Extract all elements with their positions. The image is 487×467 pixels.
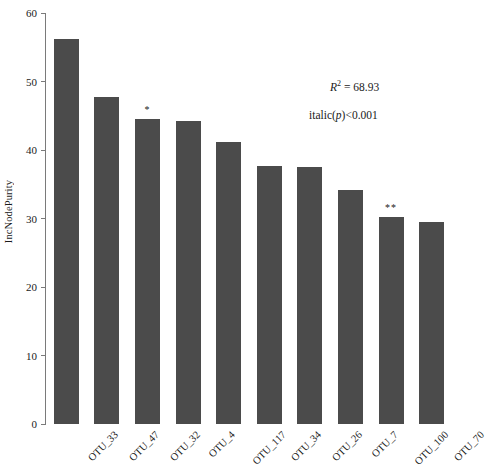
bar-group xyxy=(94,13,119,424)
x-axis-tick-label: OTU_100 xyxy=(413,429,452,467)
x-axis-tick-label: OTU_7 xyxy=(369,429,400,460)
bar xyxy=(94,97,119,424)
x-axis-tick-label: OTU_26 xyxy=(330,429,365,464)
significance-marker: * xyxy=(135,105,160,115)
bar xyxy=(176,121,201,424)
bar-group xyxy=(419,13,444,424)
bar-group: * xyxy=(135,13,160,424)
bar-group xyxy=(54,13,79,424)
bar xyxy=(257,166,282,424)
plot-area: *** xyxy=(46,13,452,424)
x-axis-tick-label: OTU_32 xyxy=(167,429,202,464)
y-axis-tick-label: 20 xyxy=(26,279,37,295)
bar-group xyxy=(257,13,282,424)
x-axis-tick-label: OTU_34 xyxy=(289,429,324,464)
y-axis-tick-label: 30 xyxy=(26,211,37,227)
bar-group xyxy=(176,13,201,424)
p-value-lead: italic( xyxy=(309,109,336,121)
bar xyxy=(54,39,79,424)
bar xyxy=(379,217,404,424)
bar xyxy=(297,167,322,424)
y-axis-tick-label: 50 xyxy=(26,74,37,90)
x-axis-tick-label: OTU_33 xyxy=(86,429,121,464)
p-value-tail: )<0.001 xyxy=(342,109,378,121)
y-axis-tick-label: 40 xyxy=(26,142,37,158)
annotation-p-value: italic(p)<0.001 xyxy=(309,108,378,122)
r-squared-value: = 68.93 xyxy=(341,81,379,93)
bar-group xyxy=(216,13,241,424)
bar xyxy=(338,190,363,424)
x-axis-tick-label: OTU_4 xyxy=(206,429,237,460)
annotation-r-squared: R2 = 68.93 xyxy=(330,77,379,94)
y-axis-tick-label: 0 xyxy=(32,416,38,432)
y-axis-tick-label: 10 xyxy=(26,348,37,364)
r-squared-symbol: R xyxy=(330,81,337,93)
bar-group xyxy=(297,13,322,424)
bar-group: ** xyxy=(379,13,404,424)
significance-marker: ** xyxy=(379,203,404,213)
bar xyxy=(216,142,241,424)
bar-group xyxy=(338,13,363,424)
x-axis-tick-label: OTU_70 xyxy=(452,429,487,464)
y-axis-tick-label: 60 xyxy=(26,5,37,21)
bar xyxy=(135,119,160,425)
y-axis-title-label: IncNodePurity xyxy=(3,180,14,243)
x-axis-tick-label: OTU_47 xyxy=(127,429,162,464)
y-axis-title: IncNodePurity xyxy=(0,0,16,424)
bar xyxy=(419,222,444,424)
x-axis-tick-label: OTU_117 xyxy=(250,429,288,467)
